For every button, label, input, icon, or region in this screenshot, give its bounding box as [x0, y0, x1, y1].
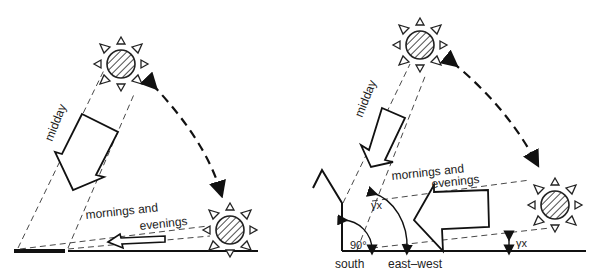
evening-radiation-arrow	[414, 185, 489, 251]
sun-evening-icon	[528, 178, 582, 232]
diagram-canvas: midday mornings and evenings midday morn…	[0, 0, 589, 277]
label-evenings: evenings	[139, 214, 188, 233]
label-gamma-lower: γx	[516, 237, 528, 249]
sun-path-arrow	[152, 84, 220, 190]
sun-path-arrow	[452, 62, 535, 160]
label-midday: midday	[42, 102, 69, 143]
house-wall	[313, 170, 342, 251]
label-south: south	[335, 257, 364, 271]
label-east-west: east–west	[388, 257, 443, 271]
right-panel: midday mornings and evenings 90° γx γx s…	[313, 18, 586, 271]
sun-midday-icon	[94, 37, 148, 91]
label-angle-90: 90°	[350, 239, 367, 251]
sun-midday-icon	[393, 18, 447, 72]
left-panel: midday mornings and evenings	[14, 37, 258, 257]
label-gamma-upper: γx	[371, 199, 383, 211]
label-midday: midday	[352, 78, 379, 119]
evening-radiation-arrow	[108, 234, 165, 248]
sun-evening-icon	[203, 203, 257, 257]
solar-angle-diagram: midday mornings and evenings midday morn…	[0, 0, 589, 277]
midday-radiation-arrow	[361, 108, 405, 167]
midday-radiation-arrow	[55, 114, 118, 190]
